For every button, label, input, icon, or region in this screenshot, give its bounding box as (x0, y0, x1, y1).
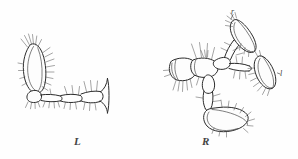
callout-label-r: r (231, 8, 234, 16)
figure-plate: L R r l (0, 0, 298, 159)
left-limb-drawing (18, 34, 109, 113)
callout-label-l: l (280, 70, 282, 78)
figure-illustration (0, 0, 298, 159)
figure-label-left: L (74, 136, 81, 147)
right-limb-drawing (164, 13, 281, 138)
figure-label-right: R (202, 136, 210, 147)
